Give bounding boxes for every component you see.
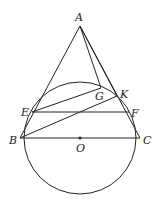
segment-ag	[80, 26, 101, 88]
center-point-o	[79, 137, 82, 140]
label-g: G	[95, 90, 104, 103]
label-b: B	[8, 134, 17, 147]
label-o: O	[76, 142, 85, 155]
geometry-figure: A B C O E F G K	[0, 0, 160, 207]
label-e: E	[20, 106, 29, 119]
segment-eg	[32, 88, 101, 112]
label-a: A	[74, 11, 83, 24]
label-k: K	[119, 88, 129, 101]
label-f: F	[130, 107, 139, 120]
label-c: C	[143, 134, 152, 147]
segment-ab	[20, 26, 80, 138]
